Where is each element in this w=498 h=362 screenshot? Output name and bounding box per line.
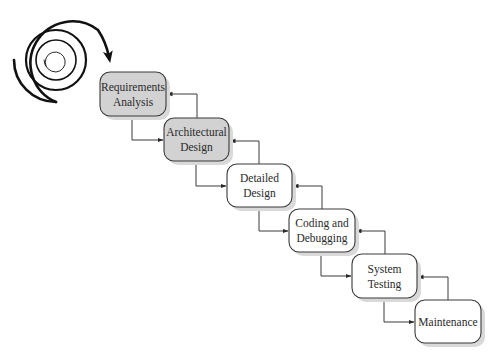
box-frame <box>289 209 355 252</box>
spiral-icon <box>14 21 109 102</box>
feedback-coding-to-detailed <box>293 186 322 209</box>
stage-label: Detailed <box>240 172 279 184</box>
stage-label: System <box>368 263 402 276</box>
stage-box-architectural: ArchitecturalDesign <box>164 118 233 165</box>
stage-label: Design <box>180 141 213 154</box>
stage-label: Analysis <box>113 96 154 109</box>
feedback-maintenance-to-testing <box>418 277 448 300</box>
feedback-architectural-to-requirements <box>167 94 197 118</box>
stage-box-detailed: DetailedDesign <box>227 164 296 211</box>
stage-box-requirements: RequirementsAnalysis <box>100 72 170 120</box>
stage-boxes: RequirementsAnalysisArchitecturalDesignD… <box>100 72 485 347</box>
stage-label: Maintenance <box>418 316 477 328</box>
stage-label: Debugging <box>296 232 347 245</box>
stage-label: Architectural <box>166 126 227 138</box>
stage-box-maintenance: Maintenance <box>415 300 485 347</box>
stage-box-coding: Coding andDebugging <box>289 209 359 256</box>
stage-label: Design <box>243 187 276 200</box>
box-frame <box>227 164 292 207</box>
box-frame <box>352 254 417 298</box>
feedback-detailed-to-architectural <box>230 141 259 164</box>
stage-label: Testing <box>368 278 402 291</box>
box-frame <box>100 72 166 116</box>
stage-box-system-testing: SystemTesting <box>352 254 421 302</box>
feedback-testing-to-coding <box>356 231 385 254</box>
stage-label: Requirements <box>101 81 165 94</box>
box-frame <box>164 118 229 161</box>
stage-label: Coding and <box>295 217 349 230</box>
waterfall-diagram: RequirementsAnalysisArchitecturalDesignD… <box>0 0 498 362</box>
